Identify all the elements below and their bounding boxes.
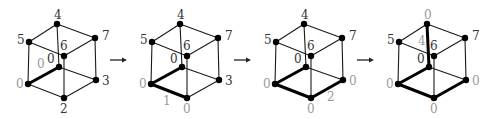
cube-2: 000354671 [139, 8, 233, 116]
vertex-label-top_front: 6 [60, 39, 68, 53]
edge-back_bottom-top_back [427, 24, 429, 67]
vertex-right_bottom [93, 77, 99, 83]
vertex-label-top_right: 7 [102, 29, 110, 43]
edge-front_left-front_bottom [275, 84, 311, 98]
vertex-label-right_bottom: 3 [102, 74, 110, 88]
edge-back_bottom-top_back [57, 24, 59, 67]
edge-label: 1 [163, 94, 171, 108]
vertex-back_bottom [303, 64, 309, 70]
vertex-top_right [215, 35, 221, 41]
vertex-top_left [273, 39, 279, 45]
vertex-label-top_front: 6 [183, 39, 191, 53]
vertex-label-front_left: 0 [386, 77, 394, 91]
vertex-label-back_bottom: 0 [47, 52, 55, 66]
edge-top_back-top_right [180, 24, 218, 38]
edge-right_bottom-top_right [95, 38, 96, 80]
vertex-label-top_front: 6 [307, 39, 315, 53]
cube-4: 000050674 [386, 8, 480, 116]
vertex-top_left [26, 39, 32, 45]
vertex-top_left [149, 39, 155, 45]
diagram-canvas: 002354670000354671000054672000050674 [0, 0, 493, 119]
vertex-right_bottom [340, 77, 346, 83]
vertex-label-back_bottom: 0 [170, 52, 178, 66]
vertex-back_bottom [426, 64, 432, 70]
vertex-label-top_left: 5 [264, 33, 272, 47]
edge-right_bottom-top_right [465, 38, 466, 80]
vertex-top_right [92, 35, 98, 41]
edge-top_left-top_back [152, 24, 180, 42]
vertex-label-top_right: 7 [349, 29, 357, 43]
edge-back_bottom-top_back [180, 24, 182, 67]
vertex-label-top_left: 5 [140, 33, 148, 47]
arrow-icon-3 [357, 58, 374, 63]
edge-top_front-top_right [311, 38, 342, 56]
vertex-label-top_right: 7 [472, 29, 480, 43]
vertex-label-top_left: 5 [17, 33, 25, 47]
cube-sequence-diagram: 002354670000354671000054672000050674 [0, 0, 493, 119]
edge-top_back-top_right [57, 24, 95, 38]
vertex-label-front_left: 0 [263, 77, 271, 91]
vertex-right_bottom [216, 77, 222, 83]
vertex-front_left [148, 81, 154, 87]
edge-right_bottom-top_right [218, 38, 219, 80]
vertex-label-front_left: 0 [16, 77, 24, 91]
edge-front_left-top_left [398, 42, 399, 84]
vertex-label-top_right: 7 [225, 29, 233, 43]
edge-label: 0 [37, 57, 45, 71]
vertex-label-top_left: 5 [387, 33, 395, 47]
vertex-back_bottom [56, 64, 62, 70]
vertex-label-front_bottom: 0 [307, 102, 315, 116]
arrow-icon-2 [234, 58, 251, 63]
cube-3: 000054672 [263, 8, 357, 116]
vertex-label-top_back: 4 [54, 8, 62, 22]
vertex-right_bottom [463, 77, 469, 83]
edge-top_back-top_right [304, 24, 342, 38]
vertex-front_bottom [61, 95, 67, 101]
edge-front_bottom-right_bottom [434, 80, 466, 98]
vertex-label-top_front: 6 [430, 39, 438, 53]
vertex-back_bottom [179, 64, 185, 70]
edge-top_front-top_right [64, 38, 95, 56]
edge-front_left-back_bottom [398, 67, 429, 84]
arrow-icon-1 [110, 58, 127, 63]
vertex-front_bottom [184, 95, 190, 101]
vertex-top_left [396, 39, 402, 45]
vertex-label-top_back: 0 [424, 8, 432, 22]
cube-1: 002354670 [16, 8, 110, 116]
edge-back_bottom-right_bottom [59, 67, 96, 80]
edge-right_bottom-top_right [342, 38, 343, 80]
vertex-front_bottom [431, 95, 437, 101]
vertex-label-right_bottom: 0 [349, 74, 357, 88]
vertex-label-top_back: 4 [301, 8, 309, 22]
edge-top_left-top_back [29, 24, 57, 42]
edge-top_left-top_back [276, 24, 304, 42]
vertex-label-back_bottom: 0 [417, 52, 425, 66]
vertex-label-front_bottom: 0 [183, 102, 191, 116]
vertex-label-right_bottom: 3 [225, 74, 233, 88]
vertex-top_right [339, 35, 345, 41]
vertex-front_left [395, 81, 401, 87]
vertex-label-front_bottom: 0 [430, 102, 438, 116]
vertex-top_front [184, 53, 190, 59]
edge-front_left-back_bottom [151, 67, 182, 84]
vertex-front_left [272, 81, 278, 87]
edge-top_front-top_right [434, 38, 465, 56]
vertex-top_front [308, 53, 314, 59]
edge-front_bottom-right_bottom [64, 80, 96, 98]
vertex-front_left [25, 81, 31, 87]
edge-front_left-back_bottom [275, 67, 306, 84]
edge-label: 2 [327, 90, 335, 104]
vertex-top_right [462, 35, 468, 41]
edge-label: 4 [418, 34, 426, 48]
vertex-top_front [61, 53, 67, 59]
edge-front_left-front_bottom [398, 84, 434, 98]
edge-top_front-top_right [187, 38, 218, 56]
vertex-label-back_bottom: 0 [294, 52, 302, 66]
vertex-front_bottom [308, 95, 314, 101]
edge-front_bottom-right_bottom [187, 80, 219, 98]
edge-front_left-top_left [151, 42, 152, 84]
edge-front_left-top_left [28, 42, 29, 84]
vertex-label-front_bottom: 2 [60, 102, 68, 116]
edge-back_bottom-right_bottom [182, 67, 219, 80]
edge-back_bottom-top_back [304, 24, 306, 67]
